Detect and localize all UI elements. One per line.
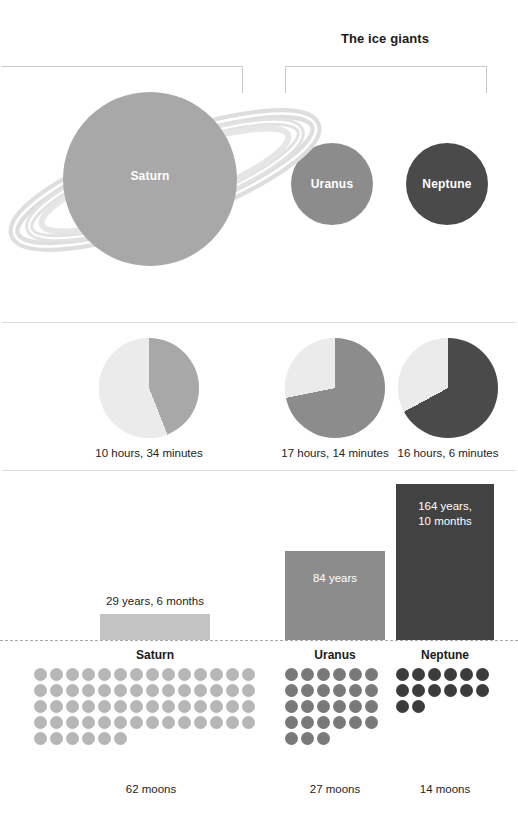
moon-dot bbox=[146, 700, 159, 713]
moon-dot bbox=[66, 732, 79, 745]
moon-dot bbox=[146, 716, 159, 729]
orbit-label-uranus: 84 years bbox=[285, 571, 385, 586]
moon-dot bbox=[130, 700, 143, 713]
moon-dot bbox=[317, 668, 330, 681]
moon-dot bbox=[194, 700, 207, 713]
moon-dot bbox=[365, 700, 378, 713]
moon-dot bbox=[50, 668, 63, 681]
moon-dot bbox=[349, 716, 362, 729]
moon-dot bbox=[242, 684, 255, 697]
pie-slice-saturn bbox=[99, 338, 199, 438]
moon-dot bbox=[98, 716, 111, 729]
moon-dot bbox=[476, 668, 489, 681]
moon-dot bbox=[317, 716, 330, 729]
moon-dot bbox=[178, 700, 191, 713]
moon-dot bbox=[130, 684, 143, 697]
moon-dot bbox=[34, 732, 47, 745]
moon-dot bbox=[349, 700, 362, 713]
moon-dot bbox=[98, 700, 111, 713]
orbit-bar-saturn bbox=[100, 614, 210, 640]
section-divider-1 bbox=[2, 322, 516, 323]
moon-dot bbox=[428, 684, 441, 697]
infographic-canvas: The ice giants Saturn Uranus Neptune 10 … bbox=[0, 0, 518, 827]
moon-dot bbox=[226, 716, 239, 729]
planet-neptune: Neptune bbox=[406, 143, 488, 225]
moon-dot bbox=[412, 684, 425, 697]
moon-dot bbox=[130, 668, 143, 681]
moon-dot bbox=[194, 668, 207, 681]
moon-dot bbox=[301, 716, 314, 729]
moon-dot bbox=[285, 668, 298, 681]
moons-title-saturn: Saturn bbox=[100, 648, 210, 662]
day-length-caption-neptune: 16 hours, 6 minutes bbox=[378, 447, 518, 459]
moon-dot bbox=[444, 684, 457, 697]
moon-dot bbox=[34, 668, 47, 681]
moon-dot bbox=[98, 732, 111, 745]
moon-dot bbox=[210, 700, 223, 713]
pie-chart-neptune-day bbox=[398, 338, 498, 438]
moon-dot bbox=[82, 732, 95, 745]
moon-dot bbox=[242, 716, 255, 729]
moon-dot bbox=[98, 668, 111, 681]
day-length-caption-saturn: 10 hours, 34 minutes bbox=[79, 447, 219, 459]
moon-dot bbox=[114, 668, 127, 681]
moon-dot bbox=[301, 700, 314, 713]
moon-dot bbox=[396, 668, 409, 681]
moon-dot bbox=[412, 700, 425, 713]
moon-dot bbox=[50, 684, 63, 697]
moons-title-neptune: Neptune bbox=[396, 648, 494, 662]
moon-dot bbox=[301, 732, 314, 745]
moon-dot bbox=[98, 684, 111, 697]
moon-dot bbox=[66, 684, 79, 697]
planet-neptune-label: Neptune bbox=[422, 177, 471, 191]
moon-dot bbox=[301, 684, 314, 697]
moon-dot bbox=[285, 716, 298, 729]
moon-dot bbox=[178, 668, 191, 681]
orbit-bar-uranus bbox=[285, 551, 385, 640]
moon-dot bbox=[34, 684, 47, 697]
moon-dot bbox=[82, 716, 95, 729]
moon-dot bbox=[460, 684, 473, 697]
planet-saturn-label: Saturn bbox=[130, 169, 169, 183]
moon-dot bbox=[226, 684, 239, 697]
moon-count-neptune: 14 moons bbox=[396, 783, 494, 795]
moon-dot bbox=[82, 684, 95, 697]
moon-dot bbox=[242, 700, 255, 713]
moon-dot bbox=[333, 700, 346, 713]
pie-slice-neptune bbox=[398, 338, 498, 438]
moon-dot bbox=[476, 684, 489, 697]
moon-dot bbox=[178, 684, 191, 697]
moon-dot bbox=[349, 668, 362, 681]
moon-dot bbox=[210, 668, 223, 681]
moon-dot bbox=[428, 668, 441, 681]
pie-chart-saturn-day bbox=[99, 338, 199, 438]
moon-dot bbox=[333, 684, 346, 697]
moon-dot bbox=[82, 668, 95, 681]
moon-dot bbox=[194, 716, 207, 729]
moon-dot bbox=[178, 716, 191, 729]
moon-dot bbox=[301, 668, 314, 681]
moon-dot bbox=[82, 700, 95, 713]
moon-dot bbox=[114, 732, 127, 745]
ice-giants-group-title: The ice giants bbox=[285, 31, 485, 46]
moon-count-uranus: 27 moons bbox=[285, 783, 385, 795]
moon-dot bbox=[50, 732, 63, 745]
moon-dot bbox=[210, 684, 223, 697]
moon-dot bbox=[210, 716, 223, 729]
moon-dot bbox=[285, 684, 298, 697]
moon-dot bbox=[162, 668, 175, 681]
moon-dot bbox=[412, 668, 425, 681]
moon-dot bbox=[34, 716, 47, 729]
moon-grid-neptune bbox=[396, 668, 497, 713]
orbit-label-saturn: 29 years, 6 months bbox=[100, 594, 210, 609]
moon-dot bbox=[146, 668, 159, 681]
moon-dot bbox=[349, 684, 362, 697]
moon-dot bbox=[34, 700, 47, 713]
moon-dot bbox=[444, 668, 457, 681]
moon-grid-saturn bbox=[34, 668, 269, 745]
moon-dot bbox=[396, 700, 409, 713]
moon-dot bbox=[50, 700, 63, 713]
moon-dot bbox=[50, 716, 63, 729]
moon-dot bbox=[226, 668, 239, 681]
moon-dot bbox=[333, 716, 346, 729]
